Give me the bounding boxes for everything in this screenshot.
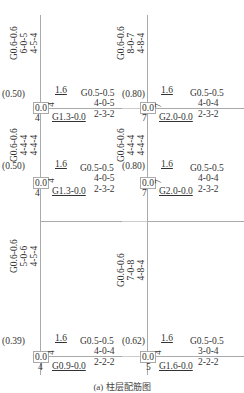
right-joint-1-side-small: 7	[154, 103, 163, 108]
left-column-line	[40, 15, 41, 375]
left-column-label-3: G0.6-0.6 5-0-6 4-5-4	[10, 239, 40, 273]
right-joint-1-beam-label: G0.5-0.5 4-0-4 2-3-2	[190, 88, 224, 119]
left-joint-2-beam-label: G0.5-0.5 4-0-5 2-3-2	[80, 163, 115, 194]
right-column-label-2: G0.6-0.6 4-4-4 4-4-4	[117, 128, 147, 162]
left-joint-1-top-small: 1.6	[55, 86, 67, 96]
left-joint-3-beam-label: G0.5-0.5 4-0-4 2-2-2	[80, 336, 115, 367]
right-joint-2-ratio: (0.80)	[122, 162, 145, 172]
right-joint-2-beam-bottom: G2.0-0.0	[159, 187, 193, 197]
left-to-right-beam-connector-2	[122, 221, 147, 222]
left-joint-1-beam-label: G0.5-0.5 4-0-5 2-3-2	[80, 88, 115, 119]
left-joint-3-ratio: (0.39)	[2, 337, 25, 347]
right-joint-2-side-small: 7	[154, 179, 163, 184]
figure-caption: (a) 柱层配筋图	[0, 380, 244, 393]
right-joint-1-beam-bottom: G2.0-0.0	[159, 113, 193, 123]
left-joint-1-side-small: 4	[47, 102, 56, 107]
right-joint-1-bottom-small: 7	[142, 114, 147, 124]
right-joint-3-ratio: (0.62)	[122, 337, 145, 347]
right-joint-3-bottom-small: 5	[146, 363, 151, 373]
left-joint-3-side-small: 4	[47, 350, 56, 355]
right-column-line	[147, 15, 148, 375]
right-joint-2-beam-label: G0.5-0.5 4-0-4 2-3-2	[190, 163, 224, 194]
right-joint-2-bottom-small: 7	[142, 189, 147, 199]
right-joint-2-top-small: 1.6	[161, 160, 173, 170]
left-joint-3-bottom-small: 4	[38, 363, 43, 373]
left-joint-2-bottom-small: 4	[35, 189, 40, 199]
right-joint-3-side-small: 4	[154, 350, 163, 355]
right-column-label-1: G0.6-0.6 8-0-7 4-8-4	[117, 26, 147, 60]
left-joint-2-ratio: (0.50)	[2, 162, 25, 172]
right-joint-3-top-small: 1.6	[161, 334, 173, 344]
right-beam-line-2	[147, 221, 244, 222]
right-joint-3-beam-bottom: G1.6-0.0	[159, 362, 193, 372]
left-beam-line-2	[40, 221, 122, 222]
left-joint-2-side-small: 4	[47, 178, 56, 183]
left-column-label-1: G0.6-0.6 6-0-5 4-5-4	[10, 26, 40, 60]
right-joint-1-ratio: (0.80)	[122, 90, 145, 100]
left-column-label-2: G0.6-0.6 4-4-4 4-4-4	[10, 128, 40, 162]
left-joint-3-top-small: 1.6	[55, 334, 67, 344]
right-joint-1-top-small: 1.6	[161, 86, 173, 96]
right-column-label-3: G0.6-0.6 7-0-8 4-8-4	[117, 253, 147, 287]
left-joint-1-ratio: (0.50)	[2, 90, 25, 100]
right-joint-3-beam-label: G0.5-0.5 3-0-4 2-2-2	[190, 336, 224, 367]
left-joint-2-top-small: 1.6	[55, 160, 67, 170]
left-joint-1-bottom-small: 4	[35, 114, 40, 124]
